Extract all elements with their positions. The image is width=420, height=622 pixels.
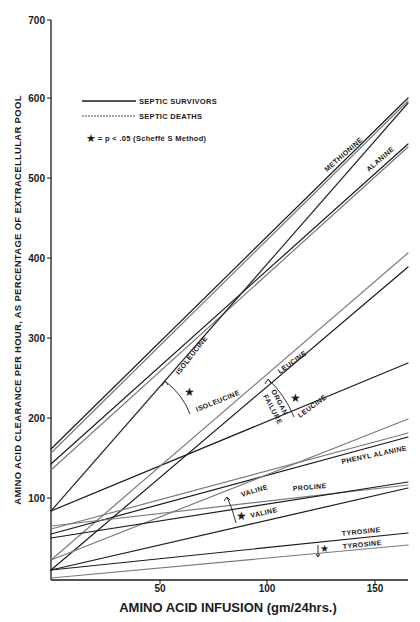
valine-lower-label: VALINE — [250, 506, 278, 519]
valine-star-icon: ★ — [236, 509, 247, 523]
y-tick-200: 200 — [28, 413, 45, 424]
methionine-label: METHIONINE — [323, 136, 364, 173]
isoleucine-star-icon: ★ — [184, 385, 195, 399]
legend-significance-note: = p < .05 (Scheffé S Method) — [98, 134, 207, 143]
isoleucine-survivors-line — [51, 363, 408, 511]
leucine-survivors-line — [51, 267, 408, 570]
legend: SEPTIC SURVIVORS SEPTIC DEATHS ★ = p < .… — [82, 97, 217, 145]
isoleucine-lower-label: ISOLEUCINE — [195, 389, 241, 413]
tyrosine-deaths-line — [51, 545, 408, 578]
legend-star-icon: ★ — [86, 132, 96, 145]
y-tick-600: 600 — [28, 93, 45, 104]
isoleucine-deaths-line — [51, 103, 408, 511]
proline-deaths-line — [51, 485, 408, 526]
legend-deaths-label: SEPTIC DEATHS — [139, 112, 202, 121]
y-tick-300: 300 — [28, 333, 45, 344]
phenyl-alanine-label: PHENYL ALANINE — [341, 444, 408, 465]
x-tick-150: 150 — [367, 583, 384, 594]
x-tick-labels: 50 100 150 — [154, 583, 383, 594]
x-tick-100: 100 — [259, 583, 276, 594]
data-lines — [51, 98, 408, 578]
leucine-star-icon: ★ — [290, 391, 301, 405]
isoleucine-upper-label: ISOLEUCINE — [174, 334, 208, 375]
tyrosine-upper-label: TYROSINE — [341, 526, 381, 537]
leucine-deaths-line — [51, 253, 408, 560]
alanine-deaths-line — [51, 147, 408, 470]
proline-label: PROLINE — [292, 482, 326, 492]
valine-upper-label: VALINE — [240, 483, 268, 498]
legend-survivors-label: SEPTIC SURVIVORS — [139, 97, 217, 106]
alanine-survivors-line — [51, 144, 408, 464]
methionine-deaths-line — [51, 101, 408, 453]
y-axis-label: AMINO ACID CLEARANCE PER HOUR, AS PERCEN… — [12, 95, 23, 505]
axes — [47, 20, 408, 584]
y-tick-500: 500 — [28, 173, 45, 184]
x-tick-50: 50 — [154, 583, 166, 594]
tyrosine-star-icon: ★ — [320, 543, 329, 554]
y-tick-400: 400 — [28, 253, 45, 264]
y-tick-700: 700 — [28, 15, 45, 26]
amino-acid-clearance-chart: 700 600 500 400 300 200 100 50 100 150 A… — [0, 0, 420, 622]
y-tick-labels: 700 600 500 400 300 200 100 — [28, 15, 45, 504]
y-tick-100: 100 — [28, 493, 45, 504]
x-axis-label: AMINO ACID INFUSION (gm/24hrs.) — [119, 600, 337, 615]
significance-arcs — [162, 379, 320, 557]
phenyl-alanine-deaths-line — [51, 433, 408, 529]
leucine-lower-label: LEUCINE — [296, 393, 327, 418]
